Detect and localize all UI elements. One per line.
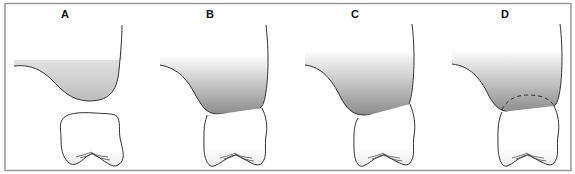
panel-d: D — [452, 8, 562, 166]
panel-b: B — [160, 8, 268, 166]
panel-a: A — [14, 8, 123, 166]
panel-label-b: B — [206, 8, 214, 20]
soft-tissue-c — [305, 50, 414, 115]
tooth-crown-a — [60, 113, 123, 166]
soft-tissue-a — [14, 25, 122, 101]
soft-tissue-b — [160, 55, 268, 114]
panel-label-a: A — [61, 8, 69, 20]
diagram-figure: A B C D — [0, 0, 575, 174]
panel-label-c: C — [351, 8, 359, 20]
panel-label-d: D — [501, 8, 509, 20]
tooth-crown-d — [498, 106, 559, 166]
tooth-crown-b — [204, 108, 267, 166]
panel-c: C — [305, 8, 415, 166]
